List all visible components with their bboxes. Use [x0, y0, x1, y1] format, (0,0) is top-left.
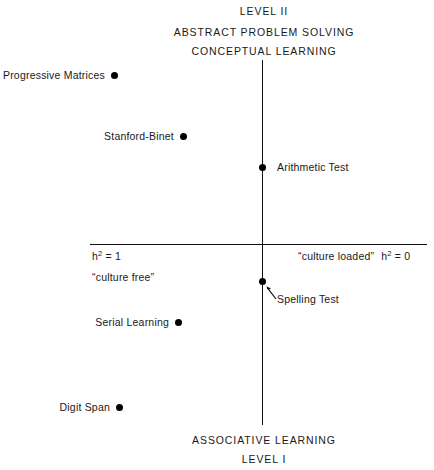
scatter-figure: LEVEL II ABSTRACT PROBLEM SOLVING CONCEP… — [0, 0, 434, 470]
h2-right-rest: = 0 — [392, 250, 411, 262]
data-point-serial-learning[interactable] — [175, 319, 182, 326]
data-point-progressive-matrices[interactable] — [111, 72, 118, 79]
data-label-arithmetic-test: Arithmetic Test — [277, 161, 349, 173]
axis-annotation-culture-free: “culture free” — [92, 271, 154, 283]
culture-loaded-text: “culture loaded” — [298, 250, 374, 262]
data-label-spelling-test: Spelling Test — [277, 293, 339, 305]
data-label-progressive-matrices: Progressive Matrices — [3, 69, 105, 81]
data-point-spelling-test[interactable] — [259, 278, 266, 285]
figure-subtitle-abstract-problem-solving: ABSTRACT PROBLEM SOLVING — [174, 26, 355, 38]
figure-footer-associative-learning: ASSOCIATIVE LEARNING — [192, 434, 336, 446]
axis-annotation-culture-loaded-h2-equals-0: “culture loaded”h2 = 0 — [298, 250, 410, 262]
data-point-digit-span[interactable] — [116, 404, 123, 411]
axis-annotation-h2-equals-1: h2 = 1 — [92, 250, 121, 262]
data-label-serial-learning: Serial Learning — [95, 316, 169, 328]
data-point-stanford-binet[interactable] — [180, 133, 187, 140]
horizontal-axis — [90, 244, 427, 245]
data-label-stanford-binet: Stanford-Binet — [104, 130, 174, 142]
figure-footer-level-1: LEVEL I — [242, 453, 286, 465]
figure-title-level-2: LEVEL II — [240, 5, 288, 17]
h2-left-rest: = 1 — [102, 250, 121, 262]
vertical-axis — [262, 60, 263, 425]
data-label-digit-span: Digit Span — [60, 401, 110, 413]
figure-subtitle-conceptual-learning: CONCEPTUAL LEARNING — [191, 45, 336, 57]
data-point-arithmetic-test[interactable] — [259, 164, 266, 171]
